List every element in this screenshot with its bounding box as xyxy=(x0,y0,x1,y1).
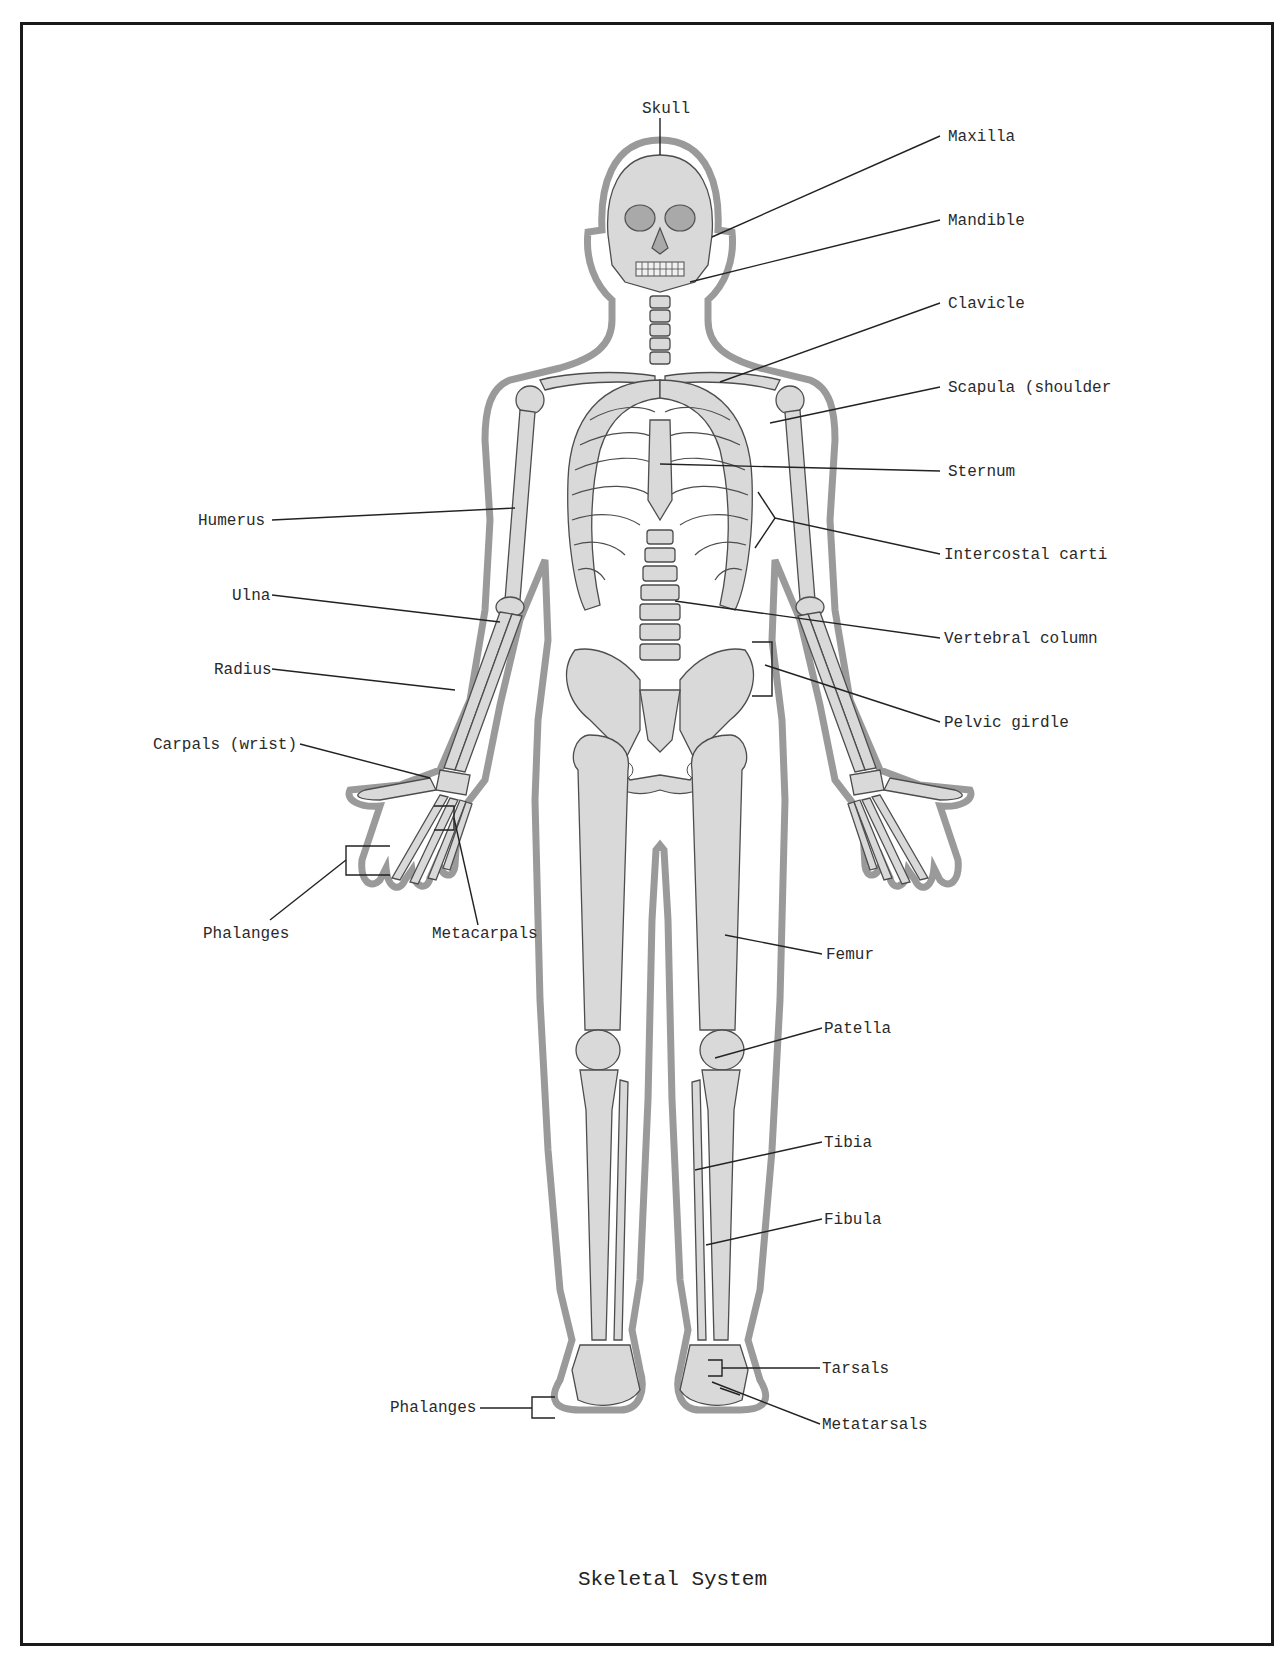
label-mandible: Mandible xyxy=(948,212,1025,230)
label-pelvic-girdle: Pelvic girdle xyxy=(944,714,1069,732)
label-ulna: Ulna xyxy=(232,587,270,605)
label-vertebral-column: Vertebral column xyxy=(944,630,1098,648)
label-tarsals: Tarsals xyxy=(822,1360,889,1378)
vertebral-column xyxy=(640,530,680,660)
label-intercostal-cartilage: Intercostal carti xyxy=(944,546,1107,564)
skeleton-illustration: .skin { fill: #ffffff; stroke: #9a9a9a; … xyxy=(0,0,1287,1670)
patella xyxy=(700,1030,744,1070)
label-phalanges-hand: Phalanges xyxy=(203,925,289,943)
label-sternum: Sternum xyxy=(948,463,1015,481)
diagram-title: Skeletal System xyxy=(578,1568,767,1591)
sternum xyxy=(648,420,672,520)
cervical-vertebrae xyxy=(650,296,670,364)
label-clavicle: Clavicle xyxy=(948,295,1025,313)
label-patella: Patella xyxy=(824,1020,891,1038)
label-phalanges-foot: Phalanges xyxy=(390,1399,476,1417)
label-skull: Skull xyxy=(642,100,690,118)
label-tibia: Tibia xyxy=(824,1134,872,1152)
label-radius: Radius xyxy=(214,661,272,679)
label-metacarpals: Metacarpals xyxy=(432,925,538,943)
label-humerus: Humerus xyxy=(198,512,265,530)
label-scapula: Scapula (shoulder xyxy=(948,379,1111,397)
label-scapula-clip: Scapula (shoulder xyxy=(948,379,1134,399)
label-fibula: Fibula xyxy=(824,1211,882,1229)
skull xyxy=(608,155,713,292)
label-metatarsals: Metatarsals xyxy=(822,1416,928,1434)
label-maxilla: Maxilla xyxy=(948,128,1015,146)
label-carpals: Carpals (wrist) xyxy=(153,736,297,754)
label-femur: Femur xyxy=(826,946,874,964)
